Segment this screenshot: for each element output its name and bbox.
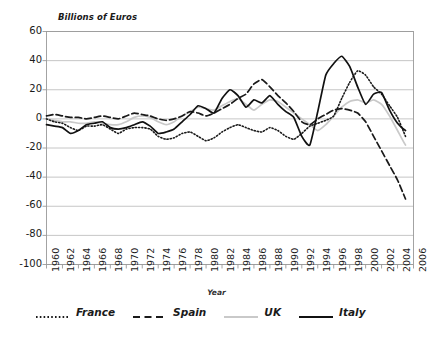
- x-axis-title: Year: [0, 288, 433, 297]
- legend-item-uk[interactable]: UK: [224, 306, 281, 318]
- legend-swatch-icon: [224, 307, 258, 317]
- legend-swatch-icon: [36, 307, 70, 317]
- x-tick-label: 1992: [306, 247, 316, 271]
- x-tick-label: 1998: [354, 247, 364, 271]
- x-tick-label: 1980: [210, 247, 220, 271]
- x-tick-label: 1968: [114, 247, 124, 271]
- legend-swatch-icon: [133, 307, 167, 317]
- x-tick-label: 1994: [322, 247, 332, 271]
- x-tick-label: 2004: [402, 247, 412, 271]
- legend-label: UK: [264, 306, 281, 318]
- legend-item-italy[interactable]: Italy: [299, 306, 365, 318]
- legend-item-spain[interactable]: Spain: [133, 306, 206, 318]
- x-tick-label: 1982: [226, 247, 236, 271]
- x-tick-label: 1960: [51, 247, 61, 271]
- x-tick-label: 1970: [130, 247, 140, 271]
- x-tick-label: 2002: [386, 247, 396, 271]
- x-tick-label: 1986: [258, 247, 268, 271]
- x-tick-label: 1966: [98, 247, 108, 271]
- chart-container: Billions of Euros 6040200-20-40-60-80-10…: [0, 0, 433, 340]
- x-tick-label: 1964: [82, 247, 92, 271]
- legend-label: Spain: [173, 306, 206, 318]
- x-tick-label: 1984: [242, 247, 252, 271]
- x-tick-label: 1990: [290, 247, 300, 271]
- x-tick-label: 1976: [178, 247, 188, 271]
- x-tick-label: 1988: [274, 247, 284, 271]
- x-tick-label: 1996: [338, 247, 348, 271]
- x-tick-label: 1974: [162, 247, 172, 271]
- chart-legend: FranceSpainUKItaly: [36, 306, 406, 318]
- x-tick-label: 2000: [370, 247, 380, 271]
- x-tick-label: 1978: [194, 247, 204, 271]
- x-tick-label: 2006: [418, 247, 428, 271]
- x-tick-label: 1962: [66, 247, 76, 271]
- legend-item-france[interactable]: France: [36, 306, 115, 318]
- legend-label: France: [76, 306, 115, 318]
- legend-label: Italy: [339, 306, 365, 318]
- legend-swatch-icon: [299, 307, 333, 317]
- x-tick-label: 1972: [146, 247, 156, 271]
